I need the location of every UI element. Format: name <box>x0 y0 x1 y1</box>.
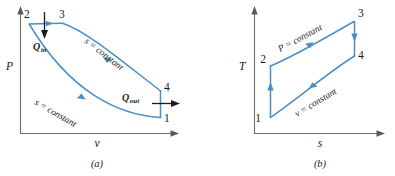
panel-b-process-3-4-arrowhead <box>351 34 357 43</box>
panel-b-y-axis-label: T <box>239 60 247 72</box>
panel-a-state-label-1: 1 <box>164 112 170 124</box>
panel-b-state-label-3: 3 <box>358 7 364 19</box>
panel-a-heat-out-subscript: out <box>130 97 140 105</box>
panel-b-process-3-4 <box>351 22 357 57</box>
panel-a-heat-out-arrow-head <box>171 100 180 107</box>
thermodynamic-cycle-figure: P v 2 3 4 1 <box>0 0 395 176</box>
panel-b-state-label-1: 1 <box>255 112 261 124</box>
panel-a-process-1-2-arrowhead <box>77 94 86 100</box>
panel-a-state-label-2: 2 <box>24 8 30 20</box>
panel-a-process-2-3-arrowhead <box>46 21 53 27</box>
panel-b-x-axis <box>255 130 386 136</box>
panel-b-x-axis-arrowhead <box>377 130 386 136</box>
panel-b-state-label-2: 2 <box>260 53 266 65</box>
panel-a-process-label-lower: s = constant <box>33 97 79 129</box>
panel-a-process-label-upper: s = constant <box>83 36 126 73</box>
figure-canvas: P v 2 3 4 1 <box>0 0 395 176</box>
panel-a-heat-in-symbol: Q <box>33 41 40 52</box>
panel-b-process-1-2-arrowhead <box>267 82 273 91</box>
panel-a-heat-out-symbol: Q <box>122 92 129 103</box>
panel-a-x-axis-label: v <box>94 137 100 149</box>
panel-b-state-label-4: 4 <box>358 49 364 61</box>
panel-b-caption: (b) <box>314 158 327 170</box>
panel-b-y-axis-arrowhead <box>251 6 257 15</box>
panel-a-x-axis-arrowhead <box>171 130 180 136</box>
panel-a: P v 2 3 4 1 <box>5 6 180 170</box>
panel-a-y-axis <box>17 6 23 134</box>
panel-a-heat-out-arrow <box>152 100 180 107</box>
panel-a-x-axis <box>21 130 180 136</box>
panel-a-process-2-3-curve <box>29 23 62 24</box>
panel-a-heat-out-label: Qout <box>122 92 140 105</box>
panel-a-state-label-3: 3 <box>59 8 65 20</box>
panel-a-heat-in-label: Qin <box>33 41 47 54</box>
panel-a-heat-in-arrow-head <box>41 30 48 39</box>
panel-a-process-2-3 <box>29 21 62 27</box>
panel-a-y-axis-arrowhead <box>17 6 23 15</box>
panel-b-process-label-upper: P = constant <box>275 22 324 54</box>
panel-b: T s 1 2 <box>239 6 385 170</box>
panel-a-y-axis-label: P <box>5 60 13 72</box>
panel-a-heat-in-subscript: in <box>41 46 47 54</box>
panel-a-state-label-4: 4 <box>164 81 170 93</box>
panel-a-caption: (a) <box>91 158 104 170</box>
panel-b-process-1-2 <box>267 66 273 118</box>
panel-b-x-axis-label: s <box>318 137 323 149</box>
panel-b-process-label-lower: v = constant <box>293 86 339 119</box>
